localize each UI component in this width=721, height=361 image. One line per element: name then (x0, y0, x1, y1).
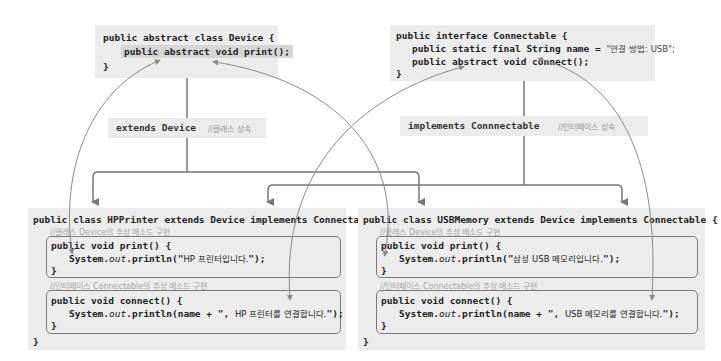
string-literal: HP 프린터를 연결합니다. (235, 309, 327, 319)
code-token: .println(" (126, 253, 183, 264)
connectable-interface-close: } (396, 67, 402, 80)
usbmemory-print-body: System.out.println("삼성 USB 메모리입니다."); (399, 252, 620, 266)
hpprinter-class-close: } (33, 335, 39, 348)
device-class-declaration: public abstract class Device { (103, 31, 275, 44)
string-literal: USB 메모리를 연결합니다. (565, 309, 663, 319)
string-literal: 삼성 USB 메모리입니다. (513, 254, 603, 264)
usbmemory-connect-method-box: public void connect() { System.out.print… (376, 290, 698, 334)
usbmemory-class-declaration: public class USBMemory extends Device im… (363, 213, 718, 226)
hpprinter-connect-body: System.out.println(name + ", HP 프린터를 연결합… (69, 307, 344, 321)
device-class-close: } (103, 60, 109, 73)
usbmemory-connect-close: } (381, 319, 387, 332)
connectable-name-constant: public static final String name = "연결 방법… (412, 42, 675, 56)
connectable-interface-box: public interface Connectable { public st… (390, 25, 655, 81)
implements-label: implements Connnectable //인터페이스 상속 (400, 116, 648, 136)
code-token: System. (69, 253, 109, 264)
hpprinter-connect-close: } (51, 319, 57, 332)
code-token: out (109, 253, 126, 264)
usbmemory-connect-body: System.out.println(name + ", USB 메모리를 연결… (399, 307, 680, 321)
usbmemory-print-signature: public void print() { (381, 239, 501, 252)
code-token: "); (662, 308, 679, 319)
hpprinter-connect-signature: public void connect() { (51, 294, 183, 307)
hpprinter-class-box: public class HPPrinter extends Device im… (28, 208, 346, 350)
connectable-connect-abstract-method: public abstract void connect(); (412, 55, 589, 68)
hpprinter-print-signature: public void print() { (51, 239, 171, 252)
usbmemory-class-close: } (363, 335, 369, 348)
code-token: out (109, 308, 126, 319)
code-token: .println(name + ", (126, 308, 235, 319)
code-token: "); (603, 253, 620, 264)
connectable-interface-declaration: public interface Connectable { (396, 29, 568, 42)
usbmemory-print-method-box: public void print() { System.out.println… (376, 236, 698, 278)
extends-comment: //클래스 상속 (208, 123, 251, 134)
code-token: out (439, 308, 456, 319)
extends-label: extends Device //클래스 상속 (108, 118, 266, 138)
implements-comment: //인터페이스 상속 (558, 121, 615, 132)
code-token: .println(name + ", (456, 308, 565, 319)
code-token: System. (69, 308, 109, 319)
hpprinter-print-body: System.out.println("HP 프린터입니다."); (69, 252, 266, 266)
constant-value: "연결 방법: USB"; (606, 44, 674, 54)
usbmemory-print-close: } (381, 264, 387, 277)
device-print-abstract-method: public abstract void print(); (121, 45, 293, 58)
code-token: System. (399, 253, 439, 264)
device-class-box: public abstract class Device { public ab… (95, 25, 278, 78)
usbmemory-connect-signature: public void connect() { (381, 294, 513, 307)
code-token: out (439, 253, 456, 264)
extends-keyword: extends Device (116, 122, 196, 133)
code-token: "); (248, 253, 265, 264)
code-token: .println(" (456, 253, 513, 264)
hpprinter-print-method-box: public void print() { System.out.println… (46, 236, 341, 278)
constant-declaration: public static final String name = (412, 43, 606, 54)
hpprinter-connect-method-box: public void connect() { System.out.print… (46, 290, 341, 334)
hpprinter-print-close: } (51, 264, 57, 277)
usbmemory-class-box: public class USBMemory extends Device im… (358, 208, 705, 350)
extends-connector (93, 78, 419, 202)
code-token: System. (399, 308, 439, 319)
string-literal: HP 프린터입니다. (183, 254, 248, 264)
implements-keyword: implements Connnectable (408, 120, 540, 131)
implements-connector (268, 81, 622, 202)
code-token: "); (327, 308, 344, 319)
hpprinter-class-declaration: public class HPPrinter extends Device im… (33, 213, 388, 226)
